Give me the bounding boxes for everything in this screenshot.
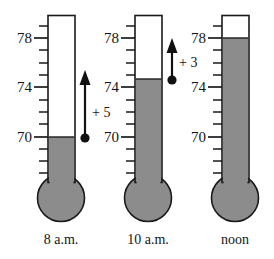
thermo-noon-tick-label-74: 74: [176, 80, 206, 95]
thermometer-10am-group: [121, 16, 178, 222]
thermo-10am-tick-label-70: 70: [89, 130, 119, 145]
delta-annotation-plus-3: + 3: [179, 56, 197, 70]
thermo-noon-tick-label-70: 70: [176, 130, 206, 145]
category-label-10am: 10 a.m.: [103, 233, 193, 247]
thermometer-8am-group: [34, 16, 91, 222]
thermometer-10am-major-ticks: [121, 38, 135, 137]
thermometer-8am-major-ticks: [34, 38, 48, 137]
thermometer-8am-minor-ticks: [39, 26, 48, 173]
thermometer-10am-fill: [136, 79, 161, 182]
thermometer-10am-bulb-joint: [137, 175, 161, 185]
thermo-8am-tick-label-70: 70: [2, 130, 32, 145]
thermometer-noon-major-ticks: [208, 38, 222, 137]
thermometer-noon-group: [208, 16, 259, 222]
thermometer-figure: 78 74 70 78 74 70 78 74 70 + 5 + 3 8 a.m…: [0, 0, 274, 259]
thermometer-10am-minor-ticks: [126, 26, 135, 173]
thermometer-noon-bulb-joint: [224, 175, 248, 185]
thermometer-graphics: [0, 0, 274, 259]
thermo-noon-tick-label-78: 78: [176, 31, 206, 46]
thermo-10am-tick-label-78: 78: [89, 31, 119, 46]
delta-annotation-plus-5: + 5: [92, 106, 110, 120]
thermometer-8am-bulb-joint: [50, 175, 74, 185]
thermometer-noon-fill: [223, 38, 248, 182]
thermometer-noon-minor-ticks: [213, 26, 222, 173]
category-label-noon: noon: [190, 233, 274, 247]
category-label-8am: 8 a.m.: [16, 233, 106, 247]
thermo-8am-tick-label-74: 74: [2, 80, 32, 95]
thermo-10am-tick-label-74: 74: [89, 80, 119, 95]
thermo-8am-tick-label-78: 78: [2, 31, 32, 46]
